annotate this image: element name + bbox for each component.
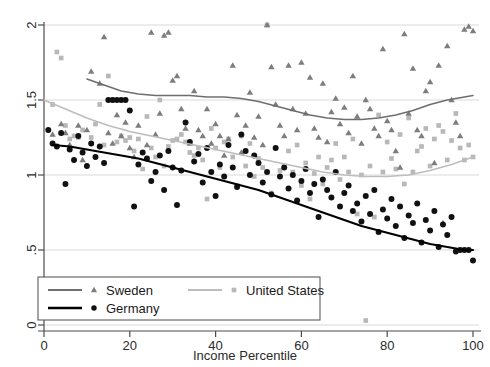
chart-canvas: 0.511.52 020406080100 Income Percentile …: [0, 0, 490, 367]
data-point: [161, 187, 167, 193]
data-point: [367, 211, 373, 217]
data-point: [342, 155, 347, 160]
income-percentile-chart: 0.511.52 020406080100 Income Percentile …: [0, 0, 490, 367]
data-point: [221, 174, 227, 180]
data-point: [127, 135, 132, 140]
data-point: [131, 204, 137, 210]
data-point: [393, 223, 399, 229]
data-point: [466, 143, 471, 148]
data-point: [58, 130, 64, 136]
data-point: [325, 165, 330, 170]
data-point: [441, 129, 446, 134]
data-point: [380, 207, 386, 213]
data-point: [247, 172, 253, 178]
data-point: [406, 213, 412, 219]
data-point: [286, 186, 292, 192]
data-point: [328, 195, 334, 201]
data-point: [410, 220, 416, 226]
data-point: [140, 150, 146, 156]
x-tick-label: 100: [462, 338, 484, 353]
data-point: [84, 163, 90, 169]
data-point: [333, 141, 338, 146]
data-point: [93, 154, 99, 160]
data-point: [45, 127, 51, 133]
data-point: [368, 164, 373, 169]
data-point: [89, 135, 94, 140]
data-point: [59, 56, 64, 61]
data-point: [415, 149, 420, 154]
data-point: [384, 216, 390, 222]
data-point: [91, 305, 96, 310]
data-point: [260, 180, 266, 186]
data-point: [389, 156, 394, 161]
data-point: [432, 137, 437, 142]
data-point: [354, 201, 360, 207]
data-point: [165, 148, 171, 154]
data-point: [208, 169, 214, 175]
data-point: [419, 144, 424, 149]
data-point: [115, 140, 120, 145]
data-point: [350, 208, 356, 214]
data-point: [195, 151, 201, 157]
legend-label: United States: [246, 283, 325, 298]
data-point: [248, 141, 253, 146]
data-point: [444, 232, 450, 238]
data-point: [136, 137, 141, 142]
data-point: [140, 167, 145, 172]
data-point: [337, 204, 343, 210]
data-point: [406, 116, 411, 121]
data-point: [71, 157, 77, 163]
legend-label: Germany: [106, 301, 160, 316]
data-point: [363, 193, 369, 199]
data-point: [320, 177, 326, 183]
data-point: [97, 102, 102, 107]
data-point: [135, 162, 141, 168]
data-point: [372, 215, 377, 220]
data-point: [427, 228, 433, 234]
x-tick-label: 80: [380, 338, 394, 353]
data-point: [230, 165, 236, 171]
data-point: [449, 138, 454, 143]
data-point: [338, 177, 343, 182]
x-axis-title: Income Percentile: [193, 348, 297, 363]
data-point: [273, 145, 279, 151]
data-point: [290, 172, 296, 178]
data-point: [123, 97, 129, 103]
data-point: [402, 182, 407, 187]
data-point: [329, 158, 334, 163]
data-point: [174, 202, 180, 208]
data-point: [303, 161, 308, 166]
data-point: [381, 170, 386, 175]
data-point: [179, 132, 184, 137]
data-point: [183, 120, 189, 126]
data-point: [458, 146, 463, 151]
data-point: [209, 126, 214, 131]
data-point: [75, 133, 81, 139]
data-point: [217, 162, 223, 168]
data-point: [278, 168, 283, 173]
data-point: [398, 132, 403, 137]
data-point: [200, 180, 206, 186]
data-point: [232, 288, 237, 293]
y-tick-label: 2: [24, 21, 39, 28]
data-point: [316, 155, 321, 160]
data-point: [355, 212, 360, 217]
data-point: [191, 159, 197, 165]
data-point: [205, 197, 210, 202]
data-point: [97, 144, 103, 150]
data-point: [157, 98, 162, 103]
data-point: [423, 217, 429, 223]
data-point: [449, 214, 455, 220]
data-point: [363, 318, 368, 323]
data-point: [213, 193, 219, 199]
data-point: [311, 181, 317, 187]
data-point: [238, 132, 244, 138]
data-point: [307, 190, 313, 196]
data-point: [243, 164, 248, 169]
data-point: [445, 158, 450, 163]
data-point: [157, 153, 163, 159]
data-point: [423, 126, 428, 131]
data-point: [376, 113, 381, 118]
data-point: [470, 258, 476, 264]
data-point: [148, 178, 154, 184]
